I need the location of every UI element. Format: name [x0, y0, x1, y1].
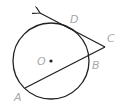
label-c: C: [107, 32, 115, 45]
label-o: O: [37, 55, 46, 68]
label-d: D: [70, 13, 78, 26]
label-a: A: [13, 91, 22, 104]
label-b: B: [92, 59, 100, 72]
center-point-o: [49, 59, 52, 62]
circle-diagram: O D C B A: [0, 0, 121, 106]
